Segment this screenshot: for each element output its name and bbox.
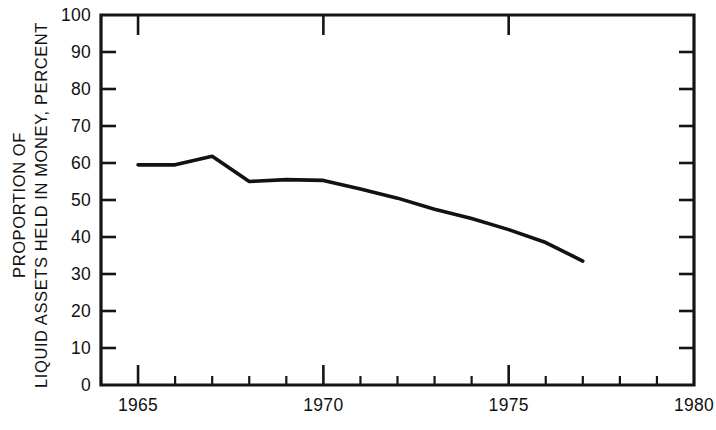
y-tick-label: 60 — [71, 153, 91, 173]
x-tick-label: 1965 — [118, 395, 158, 415]
y-tick-label: 30 — [71, 264, 91, 284]
y-tick-label: 100 — [61, 5, 91, 25]
x-axis-major-ticks — [138, 15, 509, 385]
y-tick-label: 90 — [71, 42, 91, 62]
y-axis-tick-labels: 0102030405060708090100 — [61, 5, 91, 395]
x-tick-label: 1970 — [303, 395, 343, 415]
y-tick-label: 80 — [71, 79, 91, 99]
y-tick-label: 70 — [71, 116, 91, 136]
y-tick-label: 10 — [71, 338, 91, 358]
y-axis-title-line-1: PROPORTION OF — [10, 132, 28, 278]
data-series-line — [138, 156, 583, 261]
y-tick-label: 0 — [81, 375, 91, 395]
y-axis-right-ticks — [679, 52, 694, 348]
line-chart: 0102030405060708090100 1965197019751980 … — [0, 0, 716, 430]
y-axis-left-ticks — [101, 52, 116, 348]
y-axis-title: PROPORTION OF LIQUID ASSETS HELD IN MONE… — [10, 22, 50, 388]
y-tick-label: 20 — [71, 301, 91, 321]
chart-container: 0102030405060708090100 1965197019751980 … — [0, 0, 716, 430]
x-tick-label: 1980 — [674, 395, 714, 415]
y-tick-label: 40 — [71, 227, 91, 247]
x-axis-tick-labels: 1965197019751980 — [118, 395, 714, 415]
y-axis-title-line-2: LIQUID ASSETS HELD IN MONEY, PERCENT — [32, 22, 50, 388]
x-tick-label: 1975 — [489, 395, 529, 415]
y-tick-label: 50 — [71, 190, 91, 210]
